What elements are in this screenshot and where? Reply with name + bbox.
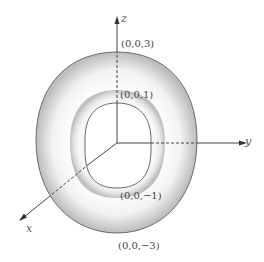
z-axis-label: z bbox=[121, 12, 127, 25]
x-arrow-icon bbox=[19, 214, 27, 222]
point-label-outer-top: (0,0,3) bbox=[121, 38, 154, 49]
point-label-inner-bottom: (0,0,−1) bbox=[120, 190, 162, 201]
z-arrow-icon bbox=[115, 16, 120, 24]
point-label-inner-top: (0,0,1) bbox=[120, 89, 153, 100]
x-axis-label: x bbox=[26, 222, 32, 235]
point-label-outer-bottom: (0,0,−3) bbox=[118, 240, 160, 251]
torus-hole bbox=[85, 103, 151, 188]
y-axis-label: y bbox=[245, 135, 251, 148]
